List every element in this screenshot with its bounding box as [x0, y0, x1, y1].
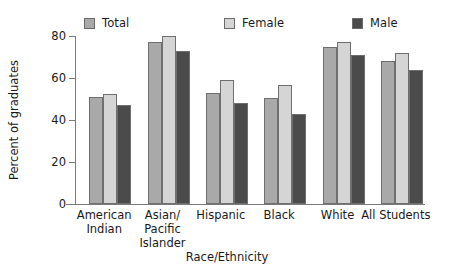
y-axis-line [75, 36, 76, 204]
plot-area: 020406080 [75, 36, 425, 204]
x-axis-category-label: All Students [361, 208, 431, 222]
y-tick-mark [69, 162, 75, 163]
legend-label-total: Total [102, 16, 129, 30]
bar-male [292, 114, 306, 204]
bar-male [351, 55, 365, 204]
legend-item-female: Female [224, 14, 284, 32]
y-tick-label: 80 [51, 29, 66, 43]
bar-total [89, 97, 103, 204]
bar-male [409, 70, 423, 204]
bar-group [381, 36, 423, 204]
bar-female [103, 94, 117, 204]
bar-male [117, 105, 131, 204]
legend-swatch-female [224, 18, 235, 29]
chart-legend: Total Female Male [84, 14, 434, 32]
bar-total [264, 98, 278, 204]
bar-female [278, 85, 292, 204]
bar-group [206, 36, 248, 204]
bar-female [395, 53, 409, 204]
y-axis-title-text: Percent of graduates [7, 60, 21, 180]
legend-label-female: Female [242, 16, 284, 30]
bar-total [323, 47, 337, 205]
legend-item-total: Total [84, 14, 129, 32]
y-tick-label: 60 [51, 71, 66, 85]
bar-chart: Total Female Male Percent of graduates 0… [0, 0, 454, 278]
bar-female [337, 42, 351, 204]
bar-male [176, 51, 190, 204]
legend-swatch-male [352, 18, 363, 29]
y-tick-label: 0 [59, 197, 66, 211]
bar-total [148, 42, 162, 204]
legend-item-male: Male [352, 14, 398, 32]
legend-swatch-total [84, 18, 95, 29]
legend-label-male: Male [370, 16, 398, 30]
bar-female [162, 36, 176, 204]
y-tick-mark [69, 120, 75, 121]
x-axis-line [66, 204, 425, 205]
y-tick-mark [69, 204, 75, 205]
y-tick-mark [69, 36, 75, 37]
bar-male [234, 103, 248, 204]
bar-group [323, 36, 365, 204]
bar-group [148, 36, 190, 204]
y-tick-label: 40 [51, 113, 66, 127]
y-tick-label: 20 [51, 155, 66, 169]
bar-total [381, 61, 395, 204]
bar-group [264, 36, 306, 204]
y-tick-mark [69, 78, 75, 79]
bar-group [89, 36, 131, 204]
bar-total [206, 93, 220, 204]
bar-female [220, 80, 234, 204]
x-axis-title: Race/Ethnicity [0, 250, 454, 264]
y-axis-title: Percent of graduates [6, 36, 22, 204]
